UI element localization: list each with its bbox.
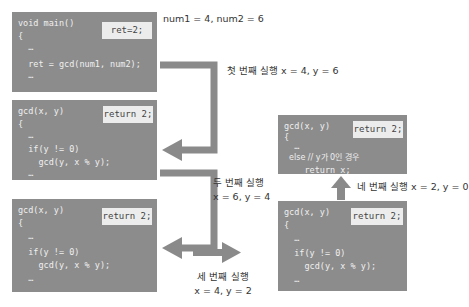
step-label-2: 두 번째 실행 x = 6, y = 4	[213, 176, 303, 204]
step-label-3-values: x = 4, y = 2	[178, 284, 268, 298]
step-label-4: 네 번째 실행 x = 2, y = 0	[357, 180, 468, 194]
step-label-1: 첫 번째 실행 x = 4, y = 6	[227, 64, 338, 78]
step-label-3-title: 세 번째 실행	[178, 270, 268, 284]
step-label-3: 세 번째 실행 x = 4, y = 2	[178, 270, 268, 298]
call-arrow-4-icon	[0, 0, 469, 307]
step-label-2-title: 두 번째 실행	[213, 176, 303, 190]
step-label-2-values: x = 6, y = 4	[213, 190, 303, 204]
